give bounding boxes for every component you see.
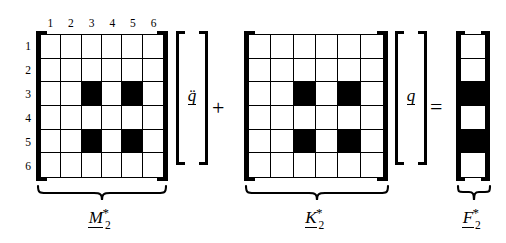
matrix-cell-filled xyxy=(338,82,360,106)
matrix-cell xyxy=(41,35,61,59)
matrix-cell xyxy=(82,35,102,59)
matrix-cell xyxy=(361,130,383,154)
matrix-cell xyxy=(338,106,360,130)
matrix-cell xyxy=(122,59,142,83)
mass-matrix-underbrace xyxy=(36,184,168,202)
matrix-cell xyxy=(61,153,81,177)
matrix-cell xyxy=(249,106,271,130)
matrix-cell xyxy=(82,59,102,83)
matrix-cell xyxy=(102,153,122,177)
matrix-cell xyxy=(338,35,360,59)
matrix-cell xyxy=(143,106,163,130)
matrix-cell xyxy=(294,35,316,59)
vector-label-glyph: q̈ xyxy=(188,87,197,105)
bracket-top-right-arm xyxy=(377,31,388,35)
matrix-cell xyxy=(361,106,383,130)
matrix-cell xyxy=(143,59,163,83)
matrix-cell xyxy=(143,35,163,59)
matrix-cell xyxy=(102,130,122,154)
column-header: 1 xyxy=(40,16,61,30)
displacement-vector-label: q xyxy=(395,86,427,106)
matrix-cell xyxy=(61,82,81,106)
row-header: 1 xyxy=(18,34,31,58)
matrix-cell xyxy=(338,59,360,83)
matrix-cell xyxy=(316,153,338,177)
matrix-cell xyxy=(361,59,383,83)
matrix-cell xyxy=(41,106,61,130)
bracket-top-right-arm xyxy=(157,31,168,35)
matrix-cell xyxy=(271,59,293,83)
matrix-cell xyxy=(316,35,338,59)
displacement-vector-bracket: q xyxy=(395,31,427,165)
bracket-left-spine xyxy=(244,31,248,181)
matrix-cell xyxy=(271,106,293,130)
matrix-cell xyxy=(249,153,271,177)
bracket-bottom-right-arm xyxy=(377,177,388,181)
bracket-top-right-arm xyxy=(481,31,490,35)
row-header: 2 xyxy=(18,58,31,82)
bracket-left-spine xyxy=(456,31,460,181)
matrix-cell xyxy=(61,35,81,59)
label-superscript: * xyxy=(316,205,323,220)
matrix-cell-filled xyxy=(338,130,360,154)
bracket-top-left-arm xyxy=(456,31,465,35)
matrix-cell xyxy=(249,82,271,106)
matrix-cell xyxy=(143,82,163,106)
matrix-cell xyxy=(316,59,338,83)
vector-bracket-top-right-arm xyxy=(199,31,208,34)
bracket-bottom-left-arm xyxy=(36,177,47,181)
matrix-cell xyxy=(102,82,122,106)
matrix-cell xyxy=(122,153,142,177)
vector-cell-filled xyxy=(461,130,485,154)
matrix-cell xyxy=(143,153,163,177)
stiffness-matrix-label: K*2 xyxy=(244,204,390,229)
label-base: F xyxy=(462,209,473,228)
matrix-cell xyxy=(122,35,142,59)
matrix-cell xyxy=(361,35,383,59)
label-superscript: * xyxy=(102,205,109,220)
bracket-bottom-left-arm xyxy=(456,177,465,181)
matrix-cell xyxy=(143,130,163,154)
matrix-cell xyxy=(338,153,360,177)
acceleration-vector-bracket: q̈ xyxy=(176,31,208,165)
matrix-cell xyxy=(316,106,338,130)
matrix-cell xyxy=(271,82,293,106)
matrix-cell-filled xyxy=(82,82,102,106)
mass-matrix-grid xyxy=(40,34,164,178)
vector-bracket-top-right-arm xyxy=(418,31,427,34)
mass-matrix-label: M*2 xyxy=(36,204,168,229)
matrix-cell xyxy=(41,130,61,154)
vector-bracket-bottom-left-arm xyxy=(176,162,185,165)
matrix-cell xyxy=(271,153,293,177)
matrix-cell xyxy=(249,35,271,59)
label-subscript: 2 xyxy=(105,219,111,231)
bracket-left-spine xyxy=(36,31,40,181)
column-header: 5 xyxy=(123,16,144,30)
matrix-cell xyxy=(41,59,61,83)
matrix-cell xyxy=(82,153,102,177)
mass-matrix-column-headers: 1 2 3 4 5 6 xyxy=(40,16,164,30)
label-subscript: 2 xyxy=(319,219,325,231)
matrix-cell xyxy=(361,153,383,177)
vector-bracket-bottom-left-arm xyxy=(395,162,404,165)
bracket-right-spine xyxy=(384,31,388,181)
label-subscript: 2 xyxy=(475,219,481,231)
row-header: 6 xyxy=(18,154,31,178)
matrix-cell xyxy=(361,82,383,106)
column-header: 4 xyxy=(102,16,123,30)
matrix-cell xyxy=(316,82,338,106)
mass-matrix-row-headers: 1 2 3 4 5 6 xyxy=(18,34,31,178)
faint-cropped-header-text xyxy=(6,0,10,7)
force-vector-label: F*2 xyxy=(452,204,496,229)
matrix-cell-filled xyxy=(82,130,102,154)
bracket-right-spine xyxy=(486,31,490,181)
vector-cell xyxy=(461,153,485,177)
matrix-cell xyxy=(61,59,81,83)
matrix-cell-filled xyxy=(122,82,142,106)
force-vector-block: F*2 xyxy=(452,16,504,242)
vector-cell-filled xyxy=(461,82,485,106)
row-header: 4 xyxy=(18,106,31,130)
matrix-cell xyxy=(102,59,122,83)
matrix-cell-filled xyxy=(122,130,142,154)
matrix-cell xyxy=(102,35,122,59)
